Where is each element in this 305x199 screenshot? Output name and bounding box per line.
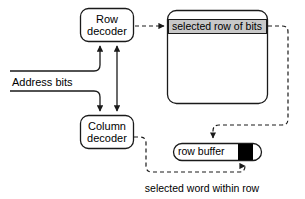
- row-decoder-box: [81, 9, 134, 42]
- diagram-canvas: Row decoder Column decoder selected row …: [0, 0, 305, 199]
- selected-row-band: [169, 20, 267, 34]
- column-decoder-box: [81, 116, 134, 149]
- selected-word-block: [238, 144, 253, 160]
- address-to-column-decoder-line: [10, 91, 100, 111]
- diagram-vector-layer: [0, 0, 305, 199]
- address-to-row-decoder-line: [10, 46, 100, 71]
